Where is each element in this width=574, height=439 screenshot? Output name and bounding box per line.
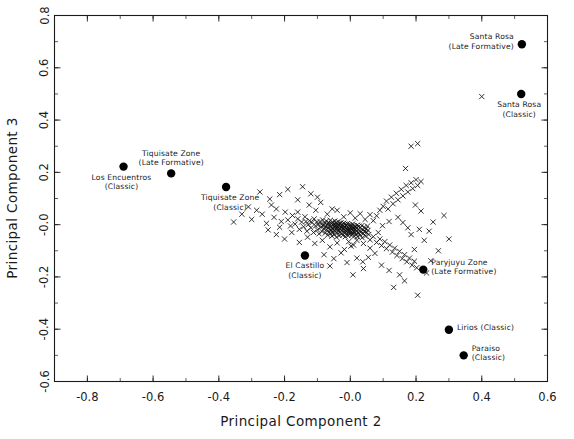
data-point-x: [308, 191, 313, 196]
x-tick-label: -0.0: [339, 390, 361, 404]
data-point-x: [412, 247, 417, 252]
data-point-x: [376, 230, 381, 235]
site-dot: [119, 162, 127, 170]
data-point-x: [321, 252, 326, 257]
data-point-x: [290, 213, 295, 218]
data-point-x: [381, 204, 386, 209]
data-point-x: [413, 202, 418, 207]
data-point-x: [331, 256, 336, 261]
data-point-x: [415, 183, 420, 188]
x-tick-label: 0.6: [538, 390, 556, 404]
data-point-x: [315, 195, 320, 200]
data-point-x: [231, 219, 236, 224]
data-point-x: [366, 255, 371, 260]
data-point-x: [282, 236, 287, 241]
data-point-x: [283, 209, 288, 214]
data-point-x: [260, 212, 265, 217]
x-tick-label: -0.8: [76, 390, 98, 404]
data-point-x: [404, 259, 409, 264]
data-point-x: [307, 218, 312, 223]
site-label: Tiquisate Zone(Late Formative): [139, 149, 204, 168]
data-point-x: [348, 210, 353, 215]
data-point-x: [274, 206, 279, 211]
data-point-x: [407, 256, 412, 261]
data-point-x: [297, 240, 302, 245]
x-tick-label: -0.6: [142, 390, 164, 404]
data-point-x: [330, 206, 335, 211]
data-point-x: [409, 180, 414, 185]
data-point-x: [386, 268, 391, 273]
data-point-x: [267, 196, 272, 201]
data-point-x: [405, 189, 410, 194]
data-point-x: [394, 191, 399, 196]
data-point-x: [239, 212, 244, 217]
scatter-plot-figure: -0.8-0.6-0.4-0.2-0.00.20.40.6 -0.6-0.4-0…: [0, 0, 574, 439]
data-point-x: [327, 263, 332, 268]
data-point-x: [320, 217, 325, 222]
site-dot: [419, 265, 427, 273]
data-point-x: [327, 244, 332, 249]
site-label: Los Encuentros(Classic): [92, 173, 152, 192]
site-dot: [301, 251, 309, 259]
data-point-x: [374, 213, 379, 218]
x-tick-label: -0.4: [208, 390, 230, 404]
data-point-x: [414, 265, 419, 270]
y-tick-label: -0.2: [38, 266, 52, 288]
data-point-x: [399, 187, 404, 192]
data-point-x: [372, 251, 377, 256]
data-point-x: [400, 193, 405, 198]
y-tick-label: -0.0: [38, 213, 52, 235]
data-point-x: [307, 202, 312, 207]
site-label: Santa Rosa(Classic): [497, 100, 541, 119]
site-label: Santa Rosa(Late Formative): [449, 32, 514, 51]
data-point-x: [277, 225, 282, 230]
axis-ticks-y: -0.6-0.4-0.2-0.00.20.40.60.8: [38, 6, 548, 392]
data-point-x: [389, 195, 394, 200]
plot-canvas: -0.8-0.6-0.4-0.2-0.00.20.40.6 -0.6-0.4-0…: [0, 0, 574, 439]
data-point-x: [312, 241, 317, 246]
site-dot: [517, 90, 525, 98]
data-point-x: [415, 293, 420, 298]
data-point-x: [405, 225, 410, 230]
data-point-x: [292, 222, 297, 227]
data-point-x: [410, 186, 415, 191]
data-point-x: [361, 241, 366, 246]
data-point-x: [415, 141, 420, 146]
y-tick-label: -0.4: [38, 318, 52, 340]
data-point-x: [320, 238, 325, 243]
site-label: Lirios (Classic): [457, 323, 514, 332]
data-point-x: [318, 200, 323, 205]
data-point-x: [341, 214, 346, 219]
data-point-x: [384, 199, 389, 204]
data-point-x: [279, 219, 284, 224]
data-point-x: [335, 208, 340, 213]
data-point-x: [350, 272, 355, 277]
data-point-x: [308, 225, 313, 230]
data-point-x: [397, 272, 402, 277]
data-point-x: [395, 215, 400, 220]
data-point-x: [371, 218, 376, 223]
data-point-x: [382, 239, 387, 244]
data-point-x: [367, 246, 372, 251]
data-point-x: [402, 278, 407, 283]
data-point-x: [400, 220, 405, 225]
data-point-x: [361, 266, 366, 271]
data-point-x: [386, 219, 391, 224]
x-tick-label: 0.4: [473, 390, 491, 404]
point-labels: Los Encuentros(Classic)Tiquisate Zone(La…: [92, 32, 542, 362]
y-tick-label: 0.4: [38, 111, 52, 129]
data-point-x: [360, 259, 365, 264]
data-point-x: [404, 183, 409, 188]
data-point-x: [353, 216, 358, 221]
y-tick-label: -0.6: [38, 370, 52, 392]
data-point-x: [409, 232, 414, 237]
x-tick-label: -0.2: [273, 390, 295, 404]
y-tick-label: 0.8: [38, 6, 52, 24]
data-point-x: [385, 206, 390, 211]
data-point-x: [409, 144, 414, 149]
data-points-site-dots: [119, 40, 526, 360]
data-point-x: [367, 212, 372, 217]
data-point-x: [358, 211, 363, 216]
data-point-x: [441, 213, 446, 218]
data-point-x: [249, 217, 254, 222]
